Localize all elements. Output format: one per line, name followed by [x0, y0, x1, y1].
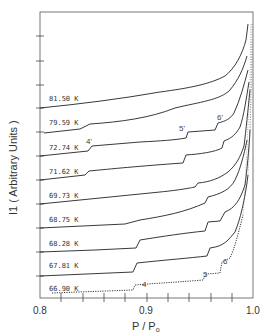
x-tick-label: 0.8 [33, 305, 47, 316]
step-label-4-prime: 4' [86, 137, 92, 146]
curve-label: 79.59 K [49, 119, 79, 127]
curve-label: 81.50 K [49, 95, 79, 103]
curve-label: 67.81 K [49, 262, 79, 270]
step-label-5-prime: 5' [179, 124, 185, 133]
curve-label: 66.90 K [49, 285, 79, 293]
step-label-4: 4 [142, 280, 147, 289]
isotherm-curves [40, 24, 250, 293]
step-label-6: 6 [223, 257, 228, 266]
x-tick-label: 1.0 [246, 305, 260, 316]
step-label-6-prime: 6' [217, 113, 223, 122]
curve-67-81k [40, 175, 248, 276]
plot-frame [40, 12, 253, 298]
curve-label: 69.73 K [49, 192, 79, 200]
chart-figure: 0.8 0.9 1.0 P / Po I1 ( Arbitrary Units … [0, 0, 266, 336]
y-axis-title: I1 ( Arbitrary Units ) [7, 120, 19, 215]
step-label-5: 5 [203, 270, 208, 279]
x-axis-ticks [61, 293, 232, 302]
curve-label: 68.75 K [49, 216, 79, 224]
chart-svg: 0.8 0.9 1.0 P / Po I1 ( Arbitrary Units … [0, 0, 266, 336]
curve-66-90k [52, 215, 243, 293]
curve-label: 71.62 K [49, 168, 79, 176]
x-axis-title: P / Po [132, 320, 160, 333]
x-tick-label: 0.9 [139, 305, 153, 316]
curve-label: 72.74 K [49, 144, 79, 152]
curve-label: 68.28 K [49, 240, 79, 248]
